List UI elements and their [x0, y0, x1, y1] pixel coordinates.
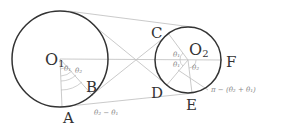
angle-label-right-theta1-top: θ₁: [173, 51, 180, 59]
label-O2: O2: [189, 40, 209, 59]
angle-arc-right-1: [180, 53, 183, 60]
angle-label-diff: θ₂ − θ₁: [94, 109, 119, 117]
angle-label-left-theta2: θ₂: [75, 67, 82, 75]
angle-label-right-theta1-bottom: θ₁: [173, 61, 180, 69]
angle-label-right-theta2: θ₂: [192, 64, 199, 72]
label-E: E: [186, 96, 197, 114]
angle-label-left-theta1: θ₁: [64, 65, 71, 73]
angle-arc-diff: [61, 82, 82, 90]
label-B: B: [86, 78, 97, 96]
label-D: D: [151, 84, 163, 102]
angle-arc-right-2: [180, 60, 183, 66]
label-C: C: [151, 24, 162, 42]
two-circle-tangent-diagram: O1 O2 A B C D E F θ₁ θ₂ θ₂ − θ₁ θ₁ θ₁ θ₂…: [0, 0, 284, 131]
center-line: [60, 59, 222, 60]
external-tangent-bottom: [60, 93, 194, 107]
angle-label-sum: π − (θ₂ + θ₁): [210, 86, 256, 94]
label-A: A: [62, 109, 74, 127]
label-F: F: [226, 53, 236, 71]
label-O1: O1: [45, 50, 65, 69]
extension-line: [178, 70, 208, 90]
